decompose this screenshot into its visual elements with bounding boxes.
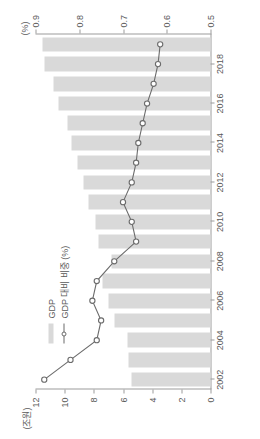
line-marker-2018 [155,61,160,66]
line-path [44,44,160,379]
line-marker-2019 [157,41,162,46]
line-marker-2012 [129,179,134,184]
line-marker-2008 [111,258,116,263]
line-marker-2010 [129,219,134,224]
line-marker-2014 [135,140,140,145]
line-marker-2003 [67,357,72,362]
line-marker-2013 [133,160,138,165]
line-marker-2016 [144,100,149,105]
line-marker-2011 [120,199,125,204]
rotated-figure-container: (조원) (%) 2002200420062008201020122014201… [0,0,260,439]
line-marker-2015 [140,120,145,125]
line-marker-2005 [98,317,103,322]
line-marker-2004 [94,337,99,342]
line-marker-2006 [89,298,94,303]
line-series-gdp-ratio [0,0,260,439]
line-marker-2009 [133,238,138,243]
line-marker-2007 [94,278,99,283]
line-marker-2017 [151,81,156,86]
chart-screenshot: (조원) (%) 2002200420062008201020122014201… [0,0,260,439]
combo-chart: (조원) (%) 2002200420062008201020122014201… [0,0,260,439]
line-marker-2002 [41,377,46,382]
